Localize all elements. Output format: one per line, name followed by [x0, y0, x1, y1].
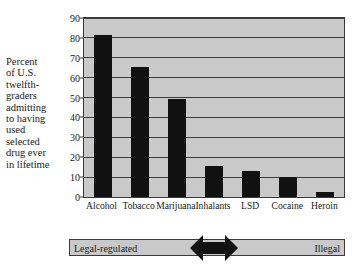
y-axis-tick-mark	[80, 97, 84, 98]
scale-left-label: Legal-regulated	[74, 242, 137, 253]
y-axis-tick-label: 90	[70, 13, 80, 24]
gridline	[84, 117, 344, 118]
chart-figure: Percent of U.S. twelfth- graders admitti…	[0, 0, 361, 270]
gridline	[84, 37, 344, 38]
y-axis-tick-label: 60	[70, 72, 80, 83]
y-axis-tick-mark	[80, 117, 84, 118]
y-axis-tick-label: 80	[70, 32, 80, 43]
gridline	[84, 97, 344, 98]
gridline	[84, 57, 344, 58]
bar	[242, 171, 260, 197]
y-axis-tick-label: 10	[70, 172, 80, 183]
bar	[205, 166, 223, 197]
y-axis-tick-mark	[80, 137, 84, 138]
y-axis-tick-label: 50	[70, 92, 80, 103]
gridline	[84, 18, 344, 19]
gridline	[84, 157, 344, 158]
x-axis-tick-label: Tobacco	[123, 200, 155, 211]
bar	[316, 192, 334, 197]
y-axis-tick-label: 40	[70, 112, 80, 123]
bar	[168, 99, 186, 197]
y-axis-tick-label: 30	[70, 132, 80, 143]
y-axis-tick-mark	[80, 177, 84, 178]
x-axis-tick-label: Inhalants	[195, 200, 230, 211]
y-axis-tick-label: 70	[70, 52, 80, 63]
y-axis-tick-mark	[80, 37, 84, 38]
x-axis-tick-label: Heroin	[311, 200, 338, 211]
gridline	[84, 137, 344, 138]
plot-frame: 0102030405060708090	[83, 17, 345, 198]
y-axis-tick-mark	[80, 157, 84, 158]
bar	[279, 177, 297, 197]
x-axis-tick-labels: AlcoholTobaccoMarijuanaInhalantsLSDCocai…	[83, 200, 345, 214]
y-axis-label: Percent of U.S. twelfth- graders admitti…	[6, 56, 66, 170]
y-axis-tick-label: 20	[70, 152, 80, 163]
y-axis-tick-mark	[80, 57, 84, 58]
x-axis-tick-label: Marijuana	[156, 200, 195, 211]
x-axis-tick-label: Alcohol	[86, 200, 117, 211]
bar	[131, 67, 149, 197]
double-arrow-icon	[190, 233, 238, 263]
y-axis-tick-mark	[80, 18, 84, 19]
y-axis-tick-mark	[80, 77, 84, 78]
scale-right-label: Illegal	[314, 242, 340, 253]
x-axis-tick-label: Cocaine	[272, 200, 303, 211]
gridline	[84, 77, 344, 78]
plot-area: 0102030405060708090	[84, 18, 344, 197]
y-axis-tick-mark	[80, 197, 84, 198]
bar	[94, 35, 112, 197]
x-axis-tick-label: LSD	[241, 200, 259, 211]
